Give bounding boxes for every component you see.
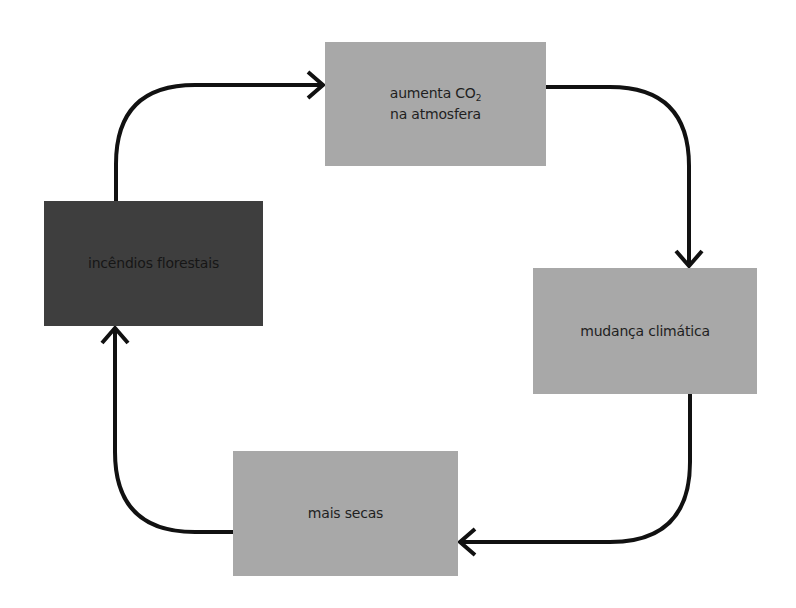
arrow-bottom-to-left	[115, 328, 233, 532]
arrow-top-to-right	[546, 87, 689, 266]
node-label-line2: na atmosfera	[390, 106, 481, 122]
node-label: incêndios florestais	[88, 253, 219, 274]
arrow-left-to-top	[116, 85, 323, 201]
node-climate-change: mudança climática	[533, 268, 757, 394]
node-forest-fires: incêndios florestais	[44, 201, 263, 326]
node-label: aumenta CO2 na atmosfera	[390, 83, 481, 125]
node-label: mudança climática	[580, 321, 710, 342]
subscript-2: 2	[476, 93, 482, 103]
node-co2-increase: aumenta CO2 na atmosfera	[325, 42, 546, 166]
cycle-diagram: aumenta CO2 na atmosfera mudança climáti…	[0, 0, 796, 608]
node-label: mais secas	[308, 503, 383, 524]
node-label-line1: aumenta CO	[390, 85, 476, 101]
node-more-droughts: mais secas	[233, 451, 458, 576]
arrow-right-to-bottom	[460, 394, 690, 542]
